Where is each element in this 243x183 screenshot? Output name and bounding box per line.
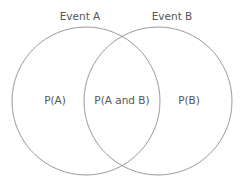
venn-diagram <box>0 0 243 183</box>
intersection-label: P(A and B) <box>94 95 149 106</box>
event-b-title: Event B <box>152 11 193 22</box>
event-a-title: Event A <box>60 11 101 22</box>
region-a-label: P(A) <box>44 95 66 106</box>
region-b-label: P(B) <box>178 95 200 106</box>
